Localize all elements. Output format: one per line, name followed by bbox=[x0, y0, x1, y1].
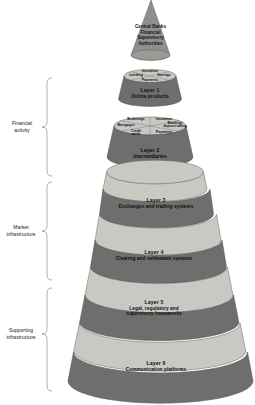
layer-1-group bbox=[119, 69, 182, 106]
layer-2-group bbox=[107, 117, 193, 167]
apex-cone-group bbox=[131, 0, 170, 60]
bracket-supporting-infrastructure bbox=[42, 288, 52, 391]
bracket-market-infrastructure bbox=[42, 182, 52, 280]
layer-3-group bbox=[100, 160, 214, 228]
diagram-canvas: Central Banks Financial Supervisory Auth… bbox=[0, 0, 255, 405]
layered-cone-svg bbox=[0, 0, 255, 405]
layer-3-top-disk bbox=[107, 160, 204, 184]
apex-cone-base-ellipse bbox=[131, 50, 170, 60]
bracket-financial-activity bbox=[42, 78, 52, 176]
